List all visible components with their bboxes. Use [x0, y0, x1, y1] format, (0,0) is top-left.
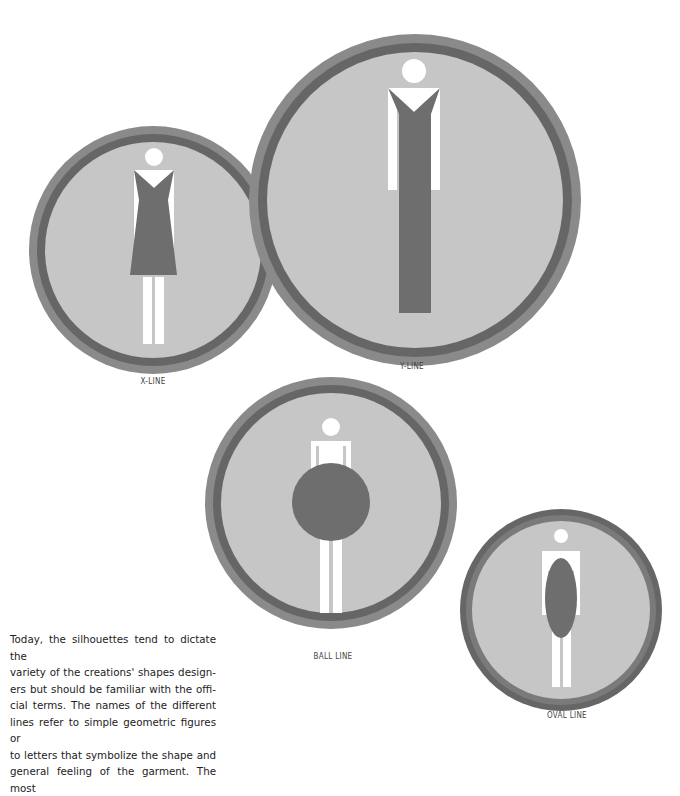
- paragraph-line: general feeling of the garment. The most: [10, 763, 216, 796]
- paragraph-line: variety of the creations' shapes design-: [10, 664, 216, 681]
- y-line-figure: [249, 34, 581, 366]
- ball-line-label: BALL LINE: [314, 652, 353, 661]
- y-line-label: Y-LINE: [400, 362, 424, 371]
- oval-line-label: OVAL LINE: [547, 711, 587, 720]
- x-line-label: X-LINE: [141, 377, 166, 386]
- paragraph-line: lines refer to simple geometric figures …: [10, 714, 216, 747]
- oval-line-figure: [460, 509, 662, 711]
- body-paragraph: Today, the silhouettes tend to dictate t…: [10, 631, 216, 796]
- paragraph-line: ers but should be familiar with the offi…: [10, 681, 216, 698]
- head-icon: [402, 59, 426, 83]
- paragraph-line: Today, the silhouettes tend to dictate t…: [10, 631, 216, 664]
- paragraph-line: cial terms. The names of the different: [10, 697, 216, 714]
- head-icon: [145, 148, 163, 166]
- x-line-figure: [29, 126, 277, 374]
- head-icon: [554, 529, 568, 543]
- head-icon: [322, 418, 340, 436]
- ball-line-figure: [205, 377, 457, 629]
- paragraph-line: to letters that symbolize the shape and: [10, 747, 216, 764]
